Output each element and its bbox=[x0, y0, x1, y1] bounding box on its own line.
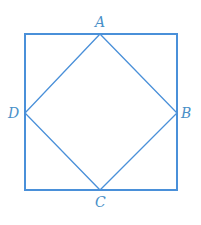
vertex-label-b: B bbox=[181, 106, 191, 120]
vertex-label-d: D bbox=[8, 106, 19, 120]
inner-rhombus-abcd bbox=[25, 34, 177, 190]
geometry-diagram bbox=[0, 0, 201, 225]
outer-square bbox=[25, 34, 177, 190]
vertex-label-c: C bbox=[95, 195, 106, 209]
vertex-label-a: A bbox=[95, 15, 105, 29]
